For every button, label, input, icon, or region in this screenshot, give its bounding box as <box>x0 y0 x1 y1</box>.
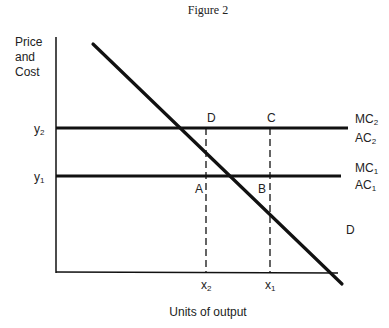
x1-tick-label: x1 <box>265 278 276 293</box>
y1-tick-label: y1 <box>34 170 45 185</box>
mc2-label: MC2 <box>355 112 379 127</box>
x2-tick-label: x2 <box>201 278 212 293</box>
ac2-label: AC2 <box>355 131 377 146</box>
x-axis <box>56 272 338 273</box>
y2-tick-label: y2 <box>34 122 45 137</box>
mc1-label: MC1 <box>355 161 379 176</box>
demand-label: D <box>346 223 355 237</box>
point-b-label: B <box>258 182 266 196</box>
point-c-label: C <box>267 111 276 125</box>
figure-chart: Figure 2 Price and Cost y2 y1 x2 x1 D C … <box>0 0 389 328</box>
y-axis-label-line1: Price <box>15 35 43 49</box>
ac1-label: AC1 <box>355 178 377 193</box>
y-axis-label-line3: Cost <box>15 65 40 79</box>
demand-line <box>93 44 342 284</box>
chart-title: Figure 2 <box>188 3 228 17</box>
point-a-label: A <box>195 182 203 196</box>
x-axis-label: Units of output <box>169 305 247 319</box>
y-axis-label-line2: and <box>15 50 35 64</box>
point-d-label: D <box>207 111 216 125</box>
